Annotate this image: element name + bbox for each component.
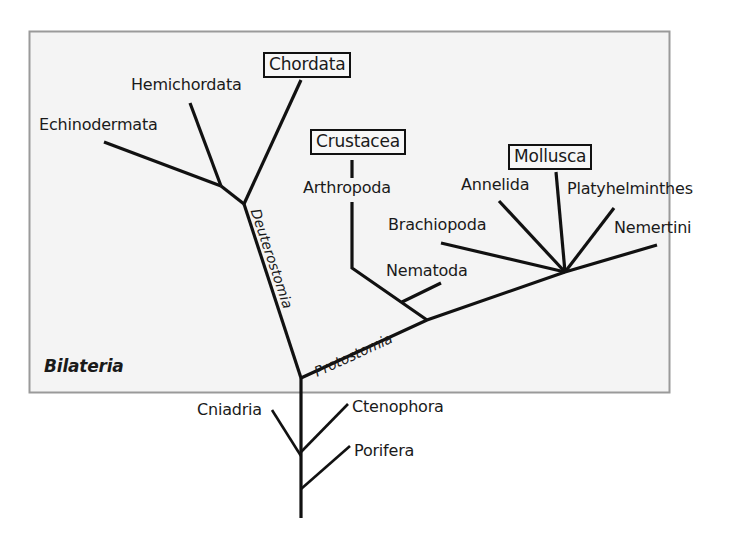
- ctenophora-branch: [301, 404, 348, 452]
- taxon-nematoda: Nematoda: [386, 263, 468, 279]
- taxon-cniadria: Cniadria: [197, 402, 262, 418]
- taxon-brachiopoda: Brachiopoda: [388, 217, 486, 233]
- cniadria-branch: [272, 410, 301, 456]
- taxon-hemichordata: Hemichordata: [131, 77, 242, 93]
- taxon-arthropoda: Arthropoda: [303, 180, 391, 196]
- taxon-annelida: Annelida: [461, 177, 529, 193]
- taxon-chordata: Chordata: [263, 52, 351, 78]
- taxon-platyhelminthes: Platyhelminthes: [567, 181, 693, 197]
- phylogenetic-tree: [0, 0, 753, 550]
- taxon-mollusca: Mollusca: [508, 144, 592, 170]
- taxon-echinodermata: Echinodermata: [39, 117, 158, 133]
- taxon-porifera: Porifera: [354, 443, 414, 459]
- taxon-nemertini: Nemertini: [614, 220, 691, 236]
- bilateria-panel: [30, 32, 670, 393]
- taxon-ctenophora: Ctenophora: [352, 399, 444, 415]
- taxon-crustacea: Crustacea: [310, 129, 406, 155]
- group-label-bilateria: Bilateria: [44, 358, 124, 375]
- porifera-branch: [301, 446, 350, 489]
